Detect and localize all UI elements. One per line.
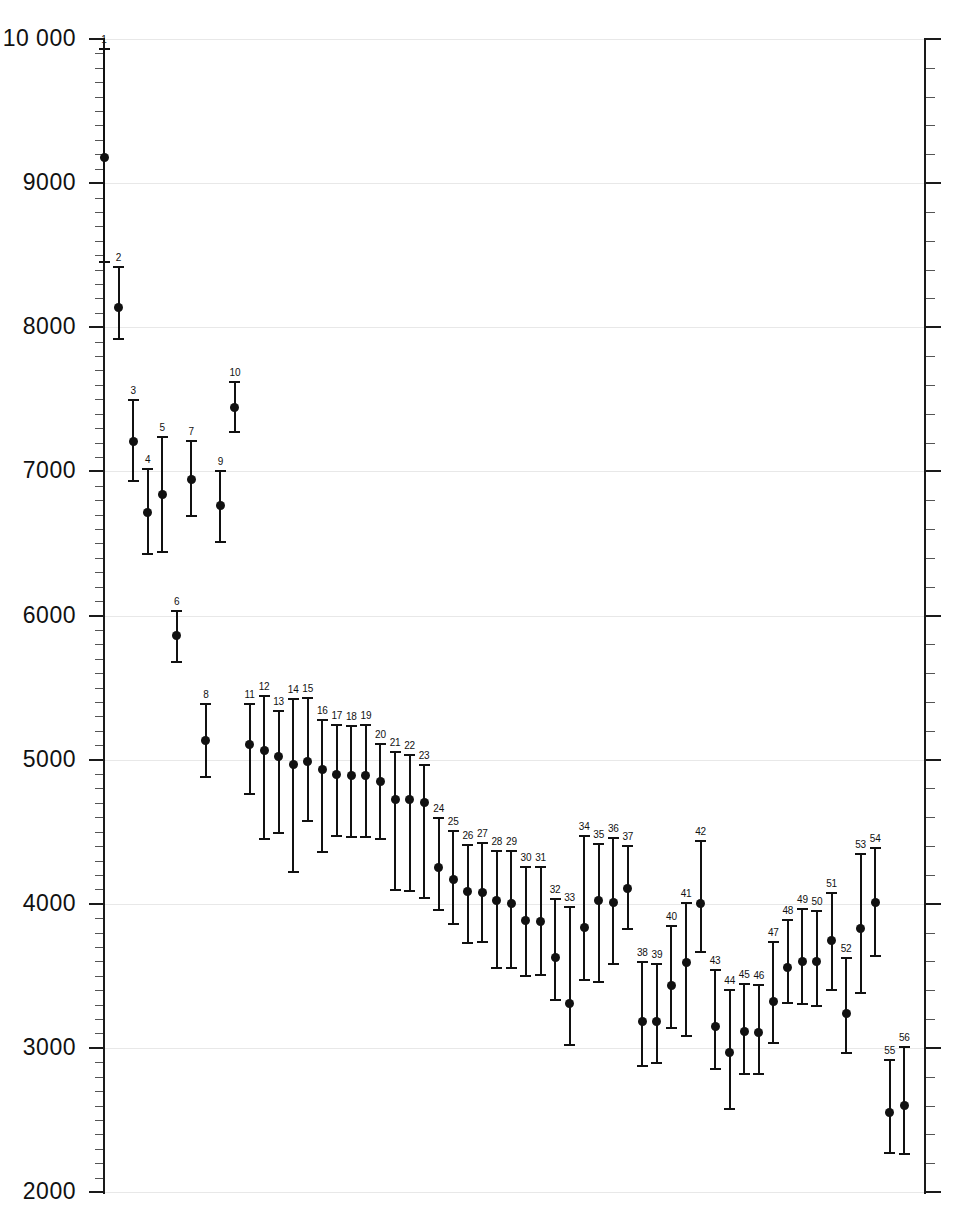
data-point-marker[interactable] <box>187 475 196 484</box>
data-point-marker[interactable] <box>172 631 181 640</box>
data-point-marker[interactable] <box>201 736 210 745</box>
error-bar-cap-lower <box>826 989 837 991</box>
y-tick-minor-right <box>926 1019 935 1020</box>
data-point-marker[interactable] <box>609 898 618 907</box>
y-axis-tick-label: 7000 <box>23 457 76 484</box>
y-tick-minor-right <box>926 270 935 271</box>
data-point-marker[interactable] <box>769 997 778 1006</box>
data-point-marker[interactable] <box>347 771 356 780</box>
error-bar-line <box>772 941 774 1043</box>
error-bar-cap-upper <box>797 908 808 910</box>
data-point-marker[interactable] <box>420 798 429 807</box>
error-bar-cap-upper <box>142 468 153 470</box>
error-bar-cap-upper <box>768 941 779 943</box>
data-point-marker[interactable] <box>885 1108 894 1117</box>
data-point-marker[interactable] <box>114 303 123 312</box>
data-point-label: 19 <box>361 710 372 721</box>
data-point-marker[interactable] <box>783 963 792 972</box>
data-point-marker[interactable] <box>754 1028 763 1037</box>
data-point-marker[interactable] <box>798 957 807 966</box>
data-point-marker[interactable] <box>551 953 560 962</box>
data-point-marker[interactable] <box>725 1048 734 1057</box>
error-bar-cap-lower <box>462 942 473 944</box>
data-point-marker[interactable] <box>682 958 691 967</box>
error-bar-cap-upper <box>666 925 677 927</box>
data-point-marker[interactable] <box>812 957 821 966</box>
data-point-marker[interactable] <box>827 936 836 945</box>
data-point-marker[interactable] <box>303 757 312 766</box>
data-point-marker[interactable] <box>696 899 705 908</box>
error-bar-cap-lower <box>375 838 386 840</box>
data-point-marker[interactable] <box>507 899 516 908</box>
data-point-marker[interactable] <box>158 490 167 499</box>
error-bar-cap-upper <box>491 850 502 852</box>
data-point-marker[interactable] <box>652 1017 661 1026</box>
data-point-marker[interactable] <box>638 1017 647 1026</box>
error-bar-cap-lower <box>724 1108 735 1110</box>
data-point-marker[interactable] <box>332 770 341 779</box>
data-point-marker[interactable] <box>129 437 138 446</box>
data-point-marker[interactable] <box>405 795 414 804</box>
data-point-marker[interactable] <box>463 887 472 896</box>
error-bar-cap-upper <box>870 847 881 849</box>
y-tick-minor-right <box>926 702 935 703</box>
data-point-marker[interactable] <box>900 1101 909 1110</box>
error-bar-cap-upper <box>826 892 837 894</box>
data-point-marker[interactable] <box>449 875 458 884</box>
error-bar-cap-lower <box>404 890 415 892</box>
data-point-marker[interactable] <box>871 898 880 907</box>
data-point-marker[interactable] <box>230 403 239 412</box>
error-bar-line <box>860 853 862 994</box>
data-point-marker[interactable] <box>376 777 385 786</box>
data-point-marker[interactable] <box>274 752 283 761</box>
data-point-marker[interactable] <box>667 981 676 990</box>
data-point-marker[interactable] <box>216 501 225 510</box>
data-point-marker[interactable] <box>391 795 400 804</box>
error-bar-line <box>656 963 658 1064</box>
data-point-marker[interactable] <box>856 924 865 933</box>
data-point-marker[interactable] <box>711 1022 720 1031</box>
y-axis-tick-label: 9000 <box>23 169 76 196</box>
data-point-marker[interactable] <box>318 765 327 774</box>
data-point-label: 33 <box>564 892 575 903</box>
data-point-marker[interactable] <box>740 1027 749 1036</box>
data-point-marker[interactable] <box>478 888 487 897</box>
data-point-marker[interactable] <box>100 153 109 162</box>
data-point-marker[interactable] <box>143 508 152 517</box>
data-point-marker[interactable] <box>434 863 443 872</box>
data-point-marker[interactable] <box>245 740 254 749</box>
data-point-label: 18 <box>346 711 357 722</box>
data-point-label: 56 <box>899 1032 910 1043</box>
gridline <box>104 760 926 761</box>
error-bar-cap-lower <box>739 1073 750 1075</box>
data-point-marker[interactable] <box>594 896 603 905</box>
data-point-label: 50 <box>812 896 823 907</box>
data-point-label: 10 <box>230 367 241 378</box>
error-bar-cap-lower <box>113 338 124 340</box>
error-bar-cap-lower <box>811 1005 822 1007</box>
y-tick-minor-right <box>926 68 935 69</box>
error-bar-cap-upper <box>564 906 575 908</box>
data-point-label: 20 <box>375 729 386 740</box>
data-point-marker[interactable] <box>260 746 269 755</box>
data-point-marker[interactable] <box>565 999 574 1008</box>
data-point-marker[interactable] <box>361 771 370 780</box>
data-point-marker[interactable] <box>521 916 530 925</box>
error-bar-cap-upper <box>171 610 182 612</box>
error-bar-chart: 10 00090008000700060005000400030002000 1… <box>0 0 960 1214</box>
data-point-marker[interactable] <box>842 1009 851 1018</box>
data-point-marker[interactable] <box>536 917 545 926</box>
gridline <box>104 1192 926 1193</box>
data-point-label: 27 <box>477 828 488 839</box>
data-point-marker[interactable] <box>580 923 589 932</box>
error-bar-cap-upper <box>99 48 110 50</box>
error-bar-cap-upper <box>550 898 561 900</box>
gridline <box>104 327 926 328</box>
data-point-label: 52 <box>841 943 852 954</box>
error-bar-cap-upper <box>215 470 226 472</box>
data-point-marker[interactable] <box>289 760 298 769</box>
gridline <box>104 616 926 617</box>
y-tick-major-right <box>926 182 941 184</box>
data-point-marker[interactable] <box>623 884 632 893</box>
error-bar-cap-upper <box>346 725 357 727</box>
